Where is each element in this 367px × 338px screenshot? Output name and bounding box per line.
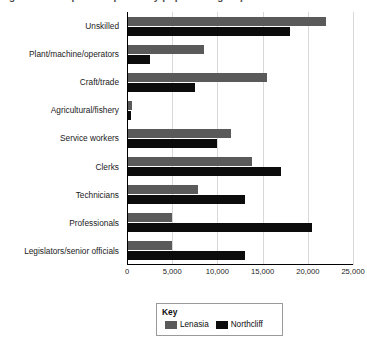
plot-frame <box>127 12 353 265</box>
legend-label: Northcliff <box>231 320 263 329</box>
y-axis-label: Unskilled <box>0 12 119 40</box>
legend-entry-lenasia: Lenasia <box>165 320 209 329</box>
legend-title: Key <box>162 307 277 318</box>
y-axis-category-labels: UnskilledPlant/machine/operatorsCraft/tr… <box>0 12 123 265</box>
y-axis-label: Plant/machine/operators <box>0 40 119 68</box>
legend-label: Lenasia <box>180 320 209 329</box>
x-tick-label: 25,000 <box>341 267 364 276</box>
y-axis-label: Technicians <box>0 181 119 209</box>
x-tick-label: 0 <box>125 267 129 276</box>
x-axis-tick-labels: 05,00010,00015,00020,00025,000 <box>127 267 353 279</box>
x-tick-label: 15,000 <box>251 267 274 276</box>
legend: Key LenasiaNorthcliff <box>156 303 283 336</box>
gridline-25000 <box>353 12 354 265</box>
y-axis-label: Craft/trade <box>0 68 119 96</box>
occupational-profile-bar-chart: Figure 1: Occupational profile by popula… <box>0 0 367 338</box>
x-tick-label: 5,000 <box>163 267 182 276</box>
y-axis-label: Agricultural/fishery <box>0 96 119 124</box>
x-tick-label: 10,000 <box>206 267 229 276</box>
y-axis-label: Professionals <box>0 209 119 237</box>
legend-entries: LenasiaNorthcliff <box>162 320 277 329</box>
y-axis-label: Legislators/senior officials <box>0 237 119 265</box>
legend-swatch-icon <box>165 321 177 329</box>
y-axis-label: Service workers <box>0 124 119 152</box>
plot-area <box>127 12 353 265</box>
figure-title-fragment: Figure 1: Occupational profile by popula… <box>0 0 367 5</box>
legend-entry-northcliff: Northcliff <box>216 320 263 329</box>
x-tick-label: 20,000 <box>296 267 319 276</box>
legend-swatch-icon <box>216 321 228 329</box>
y-axis-label: Clerks <box>0 153 119 181</box>
